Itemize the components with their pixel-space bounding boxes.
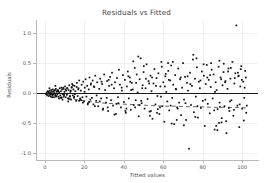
- scatter-point: [59, 87, 61, 89]
- scatter-point: [165, 91, 167, 93]
- scatter-point: [125, 110, 127, 112]
- scatter-point: [197, 117, 199, 119]
- scatter-point: [59, 95, 61, 97]
- scatter-point: [49, 90, 51, 92]
- scatter-point: [106, 80, 108, 82]
- scatter-point: [60, 97, 62, 99]
- scatter-point: [246, 105, 248, 107]
- scatter-point: [76, 82, 78, 84]
- scatter-point: [60, 90, 62, 92]
- scatter-point: [72, 84, 74, 86]
- scatter-point: [49, 94, 51, 96]
- scatter-point: [73, 89, 75, 91]
- scatter-point: [176, 119, 178, 121]
- scatter-point: [134, 107, 136, 109]
- scatter-point: [157, 95, 159, 97]
- scatter-point: [156, 112, 158, 114]
- scatter-point: [228, 107, 230, 109]
- scatter-point: [161, 61, 163, 63]
- scatter-point: [124, 79, 126, 81]
- scatter-point: [89, 77, 91, 79]
- scatter-point: [85, 78, 87, 80]
- scatter-point: [178, 102, 180, 104]
- scatter-point: [234, 83, 236, 85]
- scatter-point: [159, 113, 161, 115]
- x-tick-label: 20: [73, 164, 95, 170]
- scatter-point: [188, 148, 190, 150]
- scatter-point: [224, 81, 226, 83]
- y-tick-mark: [33, 123, 36, 124]
- scatter-point: [183, 99, 185, 101]
- scatter-point: [125, 112, 127, 114]
- scatter-point: [239, 104, 241, 106]
- scatter-point: [100, 98, 102, 100]
- x-tick-mark: [242, 160, 243, 163]
- scatter-point: [160, 86, 162, 88]
- scatter-point: [55, 85, 57, 87]
- scatter-point: [84, 91, 86, 93]
- scatter-point: [80, 90, 82, 92]
- scatter-point: [131, 82, 133, 84]
- scatter-point: [86, 85, 88, 87]
- scatter-point: [147, 98, 149, 100]
- scatter-point: [155, 104, 157, 106]
- scatter-point: [146, 63, 148, 65]
- scatter-point: [235, 72, 237, 74]
- scatter-point: [236, 105, 238, 107]
- scatter-point: [128, 75, 130, 77]
- scatter-point: [132, 60, 134, 62]
- scatter-point: [191, 85, 193, 87]
- scatter-point: [95, 100, 97, 102]
- y-tick-mark: [33, 153, 36, 154]
- x-tick-label: 100: [231, 164, 253, 170]
- scatter-point: [196, 57, 198, 59]
- scatter-point: [187, 90, 189, 92]
- scatter-point: [74, 93, 76, 95]
- y-tick-mark: [33, 33, 36, 34]
- scatter-point: [215, 125, 217, 127]
- scatter-point: [155, 85, 157, 87]
- scatter-point: [245, 112, 247, 114]
- scatter-point: [86, 96, 88, 98]
- scatter-point: [167, 70, 169, 72]
- scatter-point: [112, 105, 114, 107]
- scatter-point: [229, 110, 231, 112]
- y-tick-mark: [33, 63, 36, 64]
- scatter-point: [219, 102, 221, 104]
- scatter-point: [197, 105, 199, 107]
- scatter-point: [138, 116, 140, 118]
- scatter-point: [65, 89, 67, 91]
- scatter-point: [172, 61, 174, 63]
- scatter-point: [196, 66, 198, 68]
- scatter-point: [55, 96, 57, 98]
- scatter-point: [213, 74, 215, 76]
- scatter-point: [234, 77, 236, 79]
- scatter-point: [114, 114, 116, 116]
- scatter-point: [67, 101, 69, 103]
- scatter-point: [162, 105, 164, 107]
- scatter-point: [120, 107, 122, 109]
- scatter-point: [230, 67, 232, 69]
- scatter-point: [50, 89, 52, 91]
- scatter-point: [174, 74, 176, 76]
- scatter-point: [99, 78, 101, 80]
- scatter-point: [223, 71, 225, 73]
- scatter-point: [185, 119, 187, 121]
- residuals-vs-fitted-figure: Residuals vs Fitted 020406080100 1.00.50…: [0, 0, 273, 183]
- scatter-point: [107, 107, 109, 109]
- scatter-point: [204, 125, 206, 127]
- scatter-point: [143, 71, 145, 73]
- x-axis-label: Fitted values: [37, 172, 258, 178]
- scatter-point: [230, 78, 232, 80]
- scatter-point: [200, 80, 202, 82]
- scatter-point: [242, 81, 244, 83]
- scatter-point: [57, 93, 59, 95]
- scatter-point: [166, 101, 168, 103]
- scatter-point: [132, 89, 134, 91]
- scatter-point: [194, 116, 196, 118]
- scatter-point: [109, 76, 111, 78]
- scatter-point: [58, 90, 60, 92]
- scatter-point: [202, 100, 204, 102]
- y-tick-mark: [33, 93, 36, 94]
- scatter-point: [92, 80, 94, 82]
